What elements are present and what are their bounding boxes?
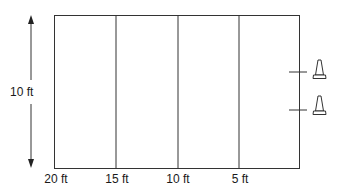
x-label-5ft: 5 ft <box>232 172 249 186</box>
field-diagram <box>0 0 343 195</box>
cone-icon <box>313 60 326 79</box>
x-label-10ft: 10 ft <box>166 172 189 186</box>
width-dimension-label: 10 ft <box>10 84 33 100</box>
arrow-down-icon <box>28 159 34 168</box>
x-label-15ft: 15 ft <box>105 172 128 186</box>
cone-icon <box>313 96 326 115</box>
field-rectangle <box>55 16 300 169</box>
x-label-20ft: 20 ft <box>44 172 67 186</box>
arrow-up-icon <box>28 15 34 24</box>
